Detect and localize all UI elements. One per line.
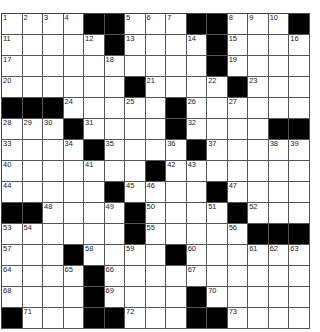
grid-cell[interactable]: 54: [23, 224, 44, 245]
grid-cell[interactable]: 3: [43, 14, 64, 35]
grid-cell[interactable]: [166, 266, 187, 287]
grid-cell[interactable]: 36: [166, 140, 187, 161]
grid-cell[interactable]: [248, 140, 269, 161]
grid-cell[interactable]: [207, 161, 228, 182]
grid-cell[interactable]: [248, 56, 269, 77]
grid-cell[interactable]: [269, 287, 290, 308]
grid-cell[interactable]: [207, 98, 228, 119]
grid-cell[interactable]: [269, 35, 290, 56]
grid-cell[interactable]: [166, 224, 187, 245]
grid-cell[interactable]: 59: [125, 245, 146, 266]
grid-cell[interactable]: 27: [228, 98, 249, 119]
grid-cell[interactable]: [125, 266, 146, 287]
grid-cell[interactable]: [269, 266, 290, 287]
grid-cell[interactable]: [43, 161, 64, 182]
grid-cell[interactable]: [166, 203, 187, 224]
grid-cell[interactable]: [43, 140, 64, 161]
grid-cell[interactable]: [23, 140, 44, 161]
grid-cell[interactable]: 25: [125, 98, 146, 119]
grid-cell[interactable]: [228, 161, 249, 182]
grid-cell[interactable]: [289, 56, 310, 77]
grid-cell[interactable]: [166, 287, 187, 308]
grid-cell[interactable]: [248, 287, 269, 308]
grid-cell[interactable]: [269, 203, 290, 224]
grid-cell[interactable]: [269, 308, 290, 329]
grid-cell[interactable]: [64, 224, 85, 245]
grid-cell[interactable]: 10: [269, 14, 290, 35]
grid-cell[interactable]: 33: [2, 140, 23, 161]
grid-cell[interactable]: 60: [187, 245, 208, 266]
grid-cell[interactable]: 57: [2, 245, 23, 266]
grid-cell[interactable]: [84, 77, 105, 98]
grid-cell[interactable]: [43, 77, 64, 98]
grid-cell[interactable]: [207, 119, 228, 140]
grid-cell[interactable]: 7: [166, 14, 187, 35]
grid-cell[interactable]: [43, 56, 64, 77]
grid-cell[interactable]: [146, 56, 167, 77]
grid-cell[interactable]: [248, 161, 269, 182]
grid-cell[interactable]: [84, 56, 105, 77]
grid-cell[interactable]: 16: [289, 35, 310, 56]
grid-cell[interactable]: 24: [64, 98, 85, 119]
grid-cell[interactable]: [125, 287, 146, 308]
grid-cell[interactable]: [269, 77, 290, 98]
grid-cell[interactable]: 35: [105, 140, 126, 161]
grid-cell[interactable]: [269, 56, 290, 77]
grid-cell[interactable]: 9: [248, 14, 269, 35]
grid-cell[interactable]: [43, 245, 64, 266]
grid-cell[interactable]: 2: [23, 14, 44, 35]
grid-cell[interactable]: [146, 266, 167, 287]
grid-cell[interactable]: 20: [2, 77, 23, 98]
grid-cell[interactable]: [289, 98, 310, 119]
grid-cell[interactable]: 42: [166, 161, 187, 182]
grid-cell[interactable]: [228, 266, 249, 287]
grid-cell[interactable]: [84, 182, 105, 203]
grid-cell[interactable]: 53: [2, 224, 23, 245]
grid-cell[interactable]: [248, 182, 269, 203]
grid-cell[interactable]: [248, 35, 269, 56]
grid-cell[interactable]: [187, 203, 208, 224]
grid-cell[interactable]: [146, 245, 167, 266]
grid-cell[interactable]: [23, 245, 44, 266]
grid-cell[interactable]: 55: [146, 224, 167, 245]
grid-cell[interactable]: 17: [2, 56, 23, 77]
grid-cell[interactable]: 66: [105, 266, 126, 287]
grid-cell[interactable]: [84, 224, 105, 245]
grid-cell[interactable]: [166, 77, 187, 98]
grid-cell[interactable]: 12: [84, 35, 105, 56]
grid-cell[interactable]: [248, 308, 269, 329]
grid-cell[interactable]: 68: [2, 287, 23, 308]
grid-cell[interactable]: 50: [146, 203, 167, 224]
grid-cell[interactable]: 70: [207, 287, 228, 308]
grid-cell[interactable]: [23, 182, 44, 203]
grid-cell[interactable]: 26: [187, 98, 208, 119]
grid-cell[interactable]: 1: [2, 14, 23, 35]
grid-cell[interactable]: [105, 224, 126, 245]
grid-cell[interactable]: 11: [2, 35, 23, 56]
grid-cell[interactable]: [146, 119, 167, 140]
grid-cell[interactable]: 28: [2, 119, 23, 140]
grid-cell[interactable]: [23, 77, 44, 98]
grid-cell[interactable]: [43, 287, 64, 308]
grid-cell[interactable]: 21: [146, 77, 167, 98]
grid-cell[interactable]: [146, 98, 167, 119]
grid-cell[interactable]: [125, 140, 146, 161]
grid-cell[interactable]: [23, 35, 44, 56]
grid-cell[interactable]: [64, 203, 85, 224]
grid-cell[interactable]: [23, 161, 44, 182]
grid-cell[interactable]: 5: [125, 14, 146, 35]
grid-cell[interactable]: 64: [2, 266, 23, 287]
grid-cell[interactable]: 71: [23, 308, 44, 329]
grid-cell[interactable]: 69: [105, 287, 126, 308]
grid-cell[interactable]: [43, 266, 64, 287]
grid-cell[interactable]: [166, 182, 187, 203]
grid-cell[interactable]: [289, 308, 310, 329]
grid-cell[interactable]: [23, 56, 44, 77]
grid-cell[interactable]: [289, 77, 310, 98]
grid-cell[interactable]: [228, 245, 249, 266]
grid-cell[interactable]: 6: [146, 14, 167, 35]
grid-cell[interactable]: 31: [84, 119, 105, 140]
grid-cell[interactable]: 51: [207, 203, 228, 224]
grid-cell[interactable]: [105, 119, 126, 140]
grid-cell[interactable]: 44: [2, 182, 23, 203]
